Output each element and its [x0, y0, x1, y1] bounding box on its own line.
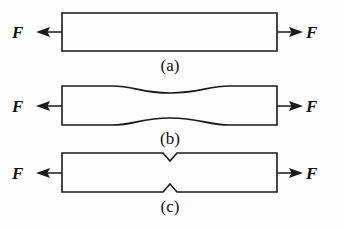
tensile-specimens-diagram: F F (a) F F	[0, 0, 344, 229]
specimen-c-group: F F (c)	[11, 153, 318, 216]
specimen-a-right-force-arrow: F	[277, 23, 318, 42]
specimen-c-right-force-arrow: F	[277, 164, 318, 183]
specimen-c-left-force-label: F	[11, 164, 24, 183]
specimen-b-caption: (b)	[160, 129, 180, 148]
specimen-a-left-force-label: F	[11, 23, 24, 42]
specimen-a-bar-outline	[62, 13, 277, 51]
specimen-a-group: F F (a)	[11, 13, 318, 75]
specimen-b-group: F F (b)	[11, 86, 318, 148]
specimen-a-caption: (a)	[161, 56, 180, 75]
figure-container: F F (a) F F	[0, 0, 344, 229]
specimen-b-right-force-label: F	[305, 97, 318, 116]
specimen-b-right-force-arrow: F	[277, 97, 318, 116]
specimen-b-bar-outline	[62, 86, 277, 125]
specimen-a-left-force-arrow: F	[11, 23, 62, 42]
specimen-c-left-force-arrow: F	[11, 164, 62, 183]
specimen-a-right-force-label: F	[305, 23, 318, 42]
specimen-c-bar-outline	[62, 153, 277, 192]
specimen-c-caption: (c)	[161, 197, 180, 216]
specimen-c-right-force-label: F	[305, 164, 318, 183]
specimen-b-left-force-label: F	[11, 97, 24, 116]
specimen-b-left-force-arrow: F	[11, 97, 62, 116]
